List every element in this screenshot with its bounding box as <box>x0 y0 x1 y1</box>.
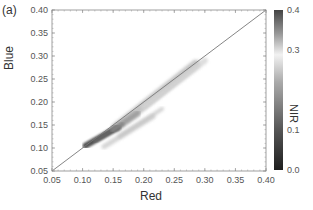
svg-text:0.1: 0.1 <box>287 125 300 135</box>
svg-text:0.4: 0.4 <box>287 5 300 15</box>
svg-text:0.25: 0.25 <box>30 74 48 84</box>
svg-text:0.40: 0.40 <box>257 175 275 185</box>
svg-text:0.05: 0.05 <box>43 175 61 185</box>
colorbar-ticks: 0.00.10.30.4 <box>287 5 300 175</box>
svg-text:0.20: 0.20 <box>135 175 153 185</box>
svg-text:0.35: 0.35 <box>227 175 245 185</box>
svg-text:0.3: 0.3 <box>287 45 300 55</box>
svg-text:0.10: 0.10 <box>30 143 48 153</box>
scatter-plot: 0.050.100.150.200.250.300.350.40 0.050.1… <box>0 0 313 210</box>
svg-text:0.30: 0.30 <box>196 175 214 185</box>
svg-text:0.15: 0.15 <box>30 120 48 130</box>
svg-text:0.35: 0.35 <box>30 28 48 38</box>
svg-text:0.05: 0.05 <box>30 166 48 176</box>
svg-text:0.30: 0.30 <box>30 51 48 61</box>
svg-text:0.15: 0.15 <box>104 175 122 185</box>
colorbar <box>274 10 283 170</box>
svg-text:0.25: 0.25 <box>166 175 184 185</box>
svg-text:0.0: 0.0 <box>287 165 300 175</box>
svg-text:0.40: 0.40 <box>30 5 48 15</box>
svg-text:0.20: 0.20 <box>30 97 48 107</box>
svg-text:0.10: 0.10 <box>74 175 92 185</box>
